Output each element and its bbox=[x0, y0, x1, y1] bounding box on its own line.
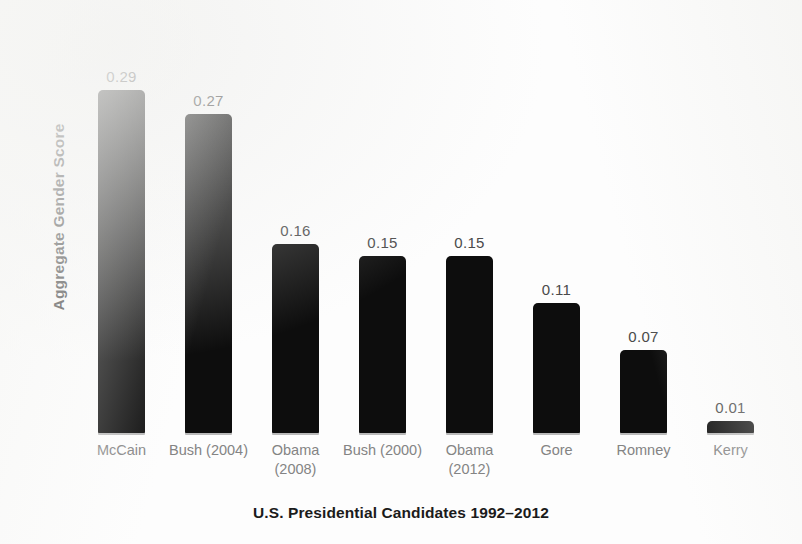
bar bbox=[359, 256, 406, 433]
axis-baseline bbox=[78, 433, 790, 434]
bar-slot: 0.15 bbox=[426, 34, 513, 433]
category-label: Bush (2004) bbox=[165, 441, 252, 460]
bar bbox=[185, 114, 232, 433]
y-axis-title: Aggregate Gender Score bbox=[36, 0, 80, 434]
bar-value-label: 0.11 bbox=[513, 281, 600, 298]
bar-slot: 0.07 bbox=[600, 34, 687, 433]
bar-value-label: 0.15 bbox=[339, 234, 426, 251]
category-label: Kerry bbox=[687, 441, 774, 460]
category-label-line1: Obama bbox=[446, 442, 494, 458]
bar bbox=[620, 350, 667, 433]
bar-slot: 0.01 bbox=[687, 34, 774, 433]
bar-value-label: 0.29 bbox=[78, 68, 165, 85]
category-label: Bush (2000) bbox=[339, 441, 426, 460]
category-label: Obama(2012) bbox=[426, 441, 513, 479]
bar-value-label: 0.07 bbox=[600, 328, 687, 345]
category-label-line1: Bush (2004) bbox=[169, 442, 248, 458]
bar-slot: 0.11 bbox=[513, 34, 600, 433]
category-label-line1: Obama bbox=[272, 442, 320, 458]
category-axis-labels: McCainBush (2004)Obama(2008)Bush (2000)O… bbox=[78, 441, 790, 493]
category-label: Obama(2008) bbox=[252, 441, 339, 479]
bar-slot: 0.16 bbox=[252, 34, 339, 433]
category-label-line1: McCain bbox=[97, 442, 146, 458]
bar bbox=[533, 303, 580, 433]
category-label-line1: Kerry bbox=[713, 442, 748, 458]
bar-value-label: 0.16 bbox=[252, 222, 339, 239]
category-label: McCain bbox=[78, 441, 165, 460]
bar bbox=[272, 244, 319, 433]
bar-slot: 0.27 bbox=[165, 34, 252, 433]
bar-value-label: 0.27 bbox=[165, 92, 252, 109]
category-label: Gore bbox=[513, 441, 600, 460]
bar-slot: 0.29 bbox=[78, 34, 165, 433]
bar bbox=[98, 90, 145, 433]
x-axis-title: U.S. Presidential Candidates 1992–2012 bbox=[0, 504, 802, 522]
category-label-line2: (2008) bbox=[252, 460, 339, 479]
bar-value-label: 0.15 bbox=[426, 234, 513, 251]
bar-chart-figure: Aggregate Gender Score 0.290.270.160.150… bbox=[0, 0, 802, 544]
bar-value-label: 0.01 bbox=[687, 399, 774, 416]
category-label-line1: Bush (2000) bbox=[343, 442, 422, 458]
plot-area: 0.290.270.160.150.150.110.070.01 bbox=[78, 34, 790, 433]
category-label-line2: (2012) bbox=[426, 460, 513, 479]
bar bbox=[707, 421, 754, 433]
bar bbox=[446, 256, 493, 433]
category-label: Romney bbox=[600, 441, 687, 460]
bar-slot: 0.15 bbox=[339, 34, 426, 433]
category-label-line1: Gore bbox=[540, 442, 572, 458]
category-label-line1: Romney bbox=[617, 442, 671, 458]
y-axis-title-text: Aggregate Gender Score bbox=[49, 123, 67, 310]
